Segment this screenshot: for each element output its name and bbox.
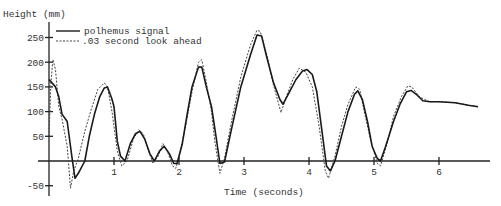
polhemus-signal-series-line — [49, 35, 478, 178]
x-tick-label: 1 — [111, 167, 117, 178]
y-tick-label: 150 — [27, 82, 44, 93]
legend: polhemus signal .03 second look ahead — [56, 26, 202, 47]
x-tick-label: 4 — [306, 167, 312, 178]
x-tick-label: 2 — [176, 167, 182, 178]
y-tick-label: 50 — [33, 132, 45, 143]
x-axis-title: Time (seconds) — [224, 187, 304, 198]
line-chart: Height (mm) Time (seconds) 2502001501005… — [0, 0, 501, 206]
y-tick-label: 200 — [27, 58, 44, 69]
x-tick-label: 3 — [241, 167, 247, 178]
y-tick-label: -50 — [27, 181, 44, 192]
y-axis-title: Height (mm) — [3, 9, 66, 20]
x-axis-ticks: 123456 — [111, 157, 442, 178]
x-tick-label: 6 — [436, 167, 442, 178]
legend-label-look-ahead: .03 second look ahead — [82, 36, 202, 47]
x-tick-label: 5 — [371, 167, 377, 178]
y-tick-label: 100 — [27, 107, 44, 118]
y-tick-label: 250 — [27, 33, 44, 44]
